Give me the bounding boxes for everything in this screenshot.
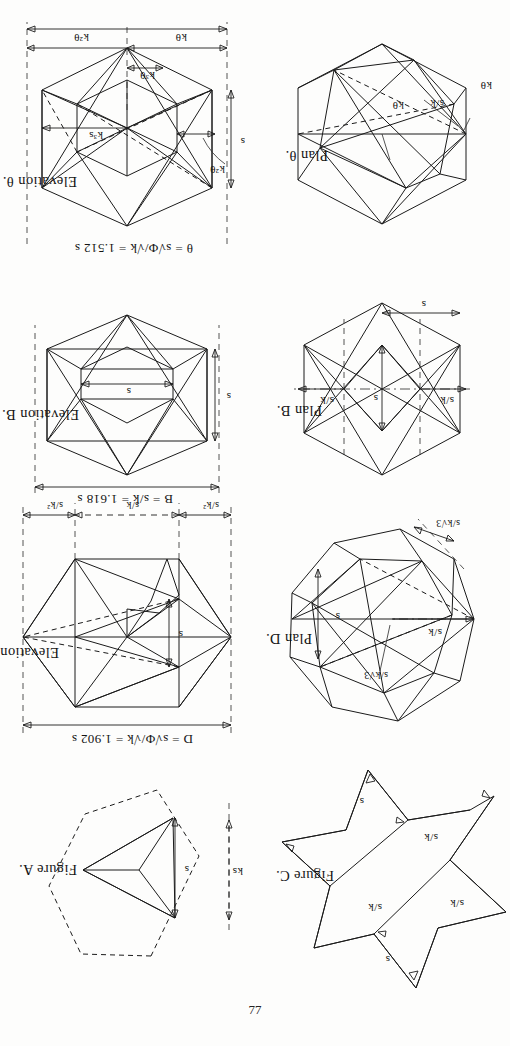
label-elevation-theta-bottom-mid: k³θ — [140, 70, 155, 82]
page-number: 77 — [0, 1002, 510, 1018]
label-elevation-theta-left-offset: k²θ — [210, 164, 225, 176]
caption-figure-a: Figure A. — [19, 861, 77, 878]
label-plan-b-bottom: s — [421, 299, 426, 311]
caption-elevation-theta: Elevation θ. — [2, 173, 77, 190]
label-plan-d-upper-fraction: s/k√3 — [364, 670, 388, 681]
elevation-b-drawing — [0, 255, 255, 515]
label-plan-b-right: s/k — [320, 395, 334, 407]
label-figure-c-bottom-edge: s — [359, 796, 364, 808]
plan-b-drawing — [255, 255, 510, 515]
figure-plan-d: Plan D. s/k s s/k√3 s/k√3 — [255, 480, 510, 755]
label-plan-d-right: s — [335, 611, 340, 623]
label-elevation-theta-bottom-right: k²θ — [74, 32, 89, 44]
plan-theta-drawing — [255, 0, 510, 260]
span-formula-elevation-d: D = s√Φ/√k = 1.902 s — [71, 731, 193, 747]
label-plan-b-left: s/k — [440, 395, 454, 407]
figure-plan-theta: Plan θ. kθ s/k kθ — [255, 0, 510, 260]
figure-elevation-b: Elevation B. B = s/k = 1.618 s s s — [0, 255, 255, 515]
book-page: Elevation θ. θ = s√Φ/√k = 1.512 s s k²θ … — [0, 0, 510, 1046]
label-plan-d-radial: s/k — [428, 627, 442, 639]
elevation-theta-drawing — [0, 0, 255, 260]
caption-plan-d: Plan D. — [266, 630, 312, 647]
label-figure-a-outer: ks — [232, 866, 243, 878]
caption-figure-c: Figure C. — [276, 867, 334, 884]
label-elevation-d-bottom-right: s/k² — [47, 500, 63, 511]
label-elevation-theta-bottom-left: kθ — [175, 32, 187, 44]
caption-plan-b: Plan B. — [277, 402, 323, 419]
label-figure-c-top-edge: s — [385, 954, 390, 966]
label-plan-theta-inner-right: kθ — [392, 100, 404, 112]
label-figure-c-upper-left: s/k — [450, 898, 464, 910]
figure-plan-b: Plan B. s/k s s/k s — [255, 255, 510, 515]
caption-plan-theta: Plan θ. — [285, 147, 328, 164]
label-elevation-b-width: s — [126, 386, 131, 398]
label-elevation-d-bottom-mid: s/k — [126, 500, 139, 511]
caption-elevation-b: Elevation B. — [2, 406, 79, 423]
label-elevation-b-height: s — [226, 391, 231, 403]
figure-elevation-d: Elevation D. D = s√Φ/√k = 1.902 s s s/k²… — [0, 480, 255, 755]
figure-elevation-theta: Elevation θ. θ = s√Φ/√k = 1.512 s s k²θ … — [0, 0, 255, 260]
label-plan-d-lower-fraction: s/k√3 — [436, 518, 460, 529]
label-figure-c-lower-left: s/k — [424, 832, 438, 844]
figure-a: Figure A. ks s — [0, 755, 255, 990]
plan-d-drawing — [255, 480, 510, 755]
label-figure-a-inner: s — [184, 864, 189, 876]
elevation-d-drawing — [0, 480, 255, 755]
caption-elevation-d: Elevation D. — [0, 644, 59, 661]
label-figure-c-upper-right: s/k — [368, 902, 382, 914]
span-formula-elevation-theta: θ = s√Φ/√k = 1.512 s — [75, 240, 193, 256]
label-plan-theta-inner-diag: s/k — [430, 98, 444, 110]
label-elevation-theta-height: s — [240, 136, 245, 148]
label-elevation-theta-inner: k³s — [89, 130, 103, 142]
label-plan-b-center: s — [373, 393, 378, 405]
label-elevation-d-height: s — [178, 629, 183, 641]
figure-c: Figure C. s s/k s/k s/k s — [255, 750, 510, 1010]
label-elevation-d-bottom-left: s/k² — [203, 500, 219, 511]
label-plan-theta-outer-left: kθ — [480, 80, 492, 92]
